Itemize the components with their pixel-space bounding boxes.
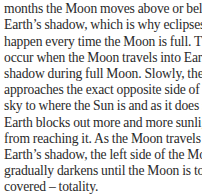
text-line: Earth blocks out more and more sunlight — [4, 115, 202, 131]
article-body: months the Moon moves above or below Ear… — [4, 0, 202, 194]
text-line: occur when the Moon travels into Earth’s — [4, 50, 202, 66]
text-line: Earth’s shadow, which is why eclipses do… — [4, 17, 202, 33]
article-paragraph: months the Moon moves above or below Ear… — [4, 0, 202, 194]
text-line: approaches the exact opposite side of th… — [4, 82, 202, 98]
text-line: happen every time the Moon is full. They — [4, 34, 202, 50]
text-line: from reaching it. As the Moon travels in… — [4, 131, 202, 147]
text-line: covered – totality. — [4, 179, 202, 194]
text-line: sky to where the Sun is and as it does s… — [4, 98, 202, 114]
text-line: months the Moon moves above or below — [4, 1, 202, 17]
text-line: gradually darkens until the Moon is tota… — [4, 163, 202, 179]
text-line: Earth’s shadow, the left side of the Moo… — [4, 147, 202, 163]
text-line: shadow during full Moon. Slowly, the Moo… — [4, 66, 202, 82]
